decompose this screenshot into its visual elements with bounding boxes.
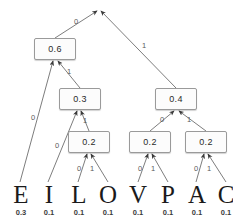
leaf-weight-E: 0.3 — [8, 208, 34, 217]
leaf-weight-C: 0.1 — [213, 208, 233, 217]
tree-node-n02a[interactable]: 0.2 — [68, 131, 110, 153]
leaf-weight-P: 0.1 — [155, 208, 181, 217]
leaf-symbol-L[interactable]: L — [66, 182, 92, 207]
edge-bit-label: 0 — [31, 114, 35, 122]
leaf-symbol-I[interactable]: I — [36, 182, 62, 207]
huffman-tree-figure: 0.60.40.30.20.20.2 01100101010101 E0.3I0… — [0, 0, 233, 223]
tree-node-n02c[interactable]: 0.2 — [185, 131, 227, 153]
leaf-symbol-C[interactable]: C — [213, 182, 233, 207]
leaf-symbol-E[interactable]: E — [8, 182, 34, 207]
edge-bit-label: 1 — [187, 116, 191, 124]
leaf-symbol-A[interactable]: A — [184, 182, 210, 207]
leaf-weight-L: 0.1 — [66, 208, 92, 217]
tree-node-n03[interactable]: 0.3 — [59, 88, 101, 110]
tree-node-value: 0.6 — [48, 44, 61, 54]
edge-bit-label: 0 — [194, 165, 198, 173]
leaf-weight-I: 0.1 — [36, 208, 62, 217]
tree-node-value: 0.2 — [82, 137, 95, 147]
leaf-weight-O: 0.1 — [95, 208, 121, 217]
edge-bit-label: 1 — [207, 165, 211, 173]
tree-edge — [20, 61, 53, 182]
tree-node-n06[interactable]: 0.6 — [34, 38, 76, 60]
leaf-symbol-V[interactable]: V — [125, 182, 151, 207]
tree-node-n04[interactable]: 0.4 — [155, 88, 197, 110]
edge-bit-label: 1 — [151, 165, 155, 173]
tree-edge — [101, 11, 176, 88]
leaf-weight-A: 0.1 — [184, 208, 210, 217]
edge-bit-label: 1 — [67, 68, 71, 76]
tree-node-value: 0.3 — [73, 94, 86, 104]
edge-bit-label: 0 — [160, 116, 164, 124]
tree-node-value: 0.2 — [143, 137, 156, 147]
edge-bit-label: 0 — [77, 165, 81, 173]
leaf-symbol-O[interactable]: O — [95, 182, 121, 207]
tree-node-value: 0.2 — [199, 137, 212, 147]
tree-edge — [179, 111, 206, 131]
tree-node-n02b[interactable]: 0.2 — [129, 131, 171, 153]
edge-bit-label: 0 — [55, 142, 59, 150]
edge-bit-label: 0 — [138, 165, 142, 173]
leaf-symbol-P[interactable]: P — [155, 182, 181, 207]
edge-bit-label: 0 — [74, 18, 78, 26]
edge-bit-label: 1 — [142, 42, 146, 50]
edge-bit-label: 1 — [83, 117, 87, 125]
tree-node-value: 0.4 — [169, 94, 182, 104]
leaf-weight-V: 0.1 — [125, 208, 151, 217]
edge-bit-label: 1 — [90, 165, 94, 173]
